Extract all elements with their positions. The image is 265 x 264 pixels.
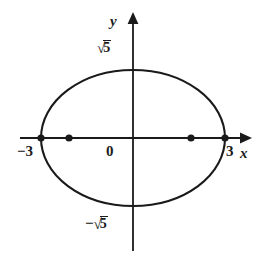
y-tick-label-sqrt-5: √5	[97, 40, 111, 56]
y-tick-label-negative-sqrt-5: −√5	[85, 216, 108, 232]
sqrt5-top-radicand: 5	[103, 40, 111, 56]
ellipse-figure: y x 0 −3 3 √5 −√5	[0, 0, 265, 264]
x-tick-label-positive-3: 3	[226, 144, 234, 159]
point-focus-right	[187, 134, 194, 141]
y-axis-label: y	[110, 14, 117, 29]
point-vertex-left	[37, 134, 44, 141]
point-focus-left	[65, 134, 72, 141]
y-axis-arrowhead-icon	[128, 12, 139, 24]
x-axis-label: x	[240, 146, 248, 161]
sqrt5-bottom-minus-sign: −	[85, 215, 94, 231]
x-axis-arrowhead-icon	[240, 133, 252, 144]
x-tick-label-negative-3: −3	[17, 144, 33, 159]
point-vertex-right	[221, 134, 228, 141]
origin-label: 0	[106, 144, 114, 159]
sqrt5-bottom-radicand: 5	[100, 216, 108, 232]
graph-canvas	[0, 0, 265, 264]
